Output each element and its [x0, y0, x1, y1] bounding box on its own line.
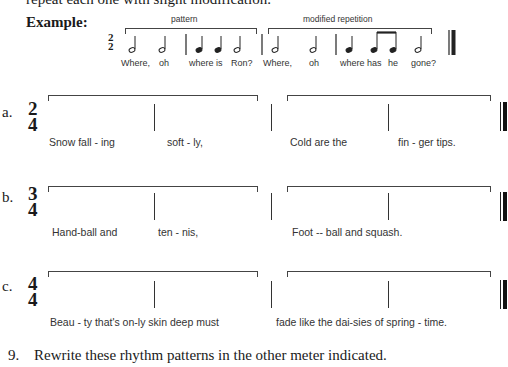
example-lyric: he: [388, 58, 398, 68]
pattern-bracket: [48, 271, 258, 277]
final-bar-line: [503, 280, 507, 309]
lyric: Hand-ball and: [52, 226, 117, 238]
example-lyric: oh: [309, 58, 319, 68]
final-bar-line: [503, 192, 507, 221]
bar-line: [154, 281, 155, 308]
lyric: Snow fall - ing: [49, 136, 115, 148]
lyric: ten - nis,: [158, 226, 198, 238]
final-bar-line: [500, 102, 501, 131]
example-lyric: gone?: [411, 58, 436, 68]
example-lyric: Ron?: [231, 58, 253, 68]
example-lyric: Where,: [263, 58, 292, 68]
final-bar-line: [503, 102, 507, 131]
exercise-letter: c.: [2, 278, 12, 295]
bar-line: [388, 281, 389, 308]
final-bar-line: [500, 192, 501, 221]
question-9: 9.Rewrite these rhythm patterns in the o…: [8, 347, 387, 364]
time-signature: 2 4: [28, 101, 38, 132]
bar-line: [388, 104, 389, 131]
repetition-bracket: [287, 95, 491, 101]
lyric: soft - ly,: [167, 136, 203, 148]
example-lyric: where has: [340, 58, 382, 68]
time-signature: 3 4: [28, 186, 38, 217]
repetition-bracket: [287, 271, 491, 277]
time-signature: 4 4: [28, 276, 38, 307]
bar-line: [154, 193, 155, 220]
lyric: fade like the dai-sies of spring - time.: [276, 316, 447, 328]
lyric: Cold are the: [290, 136, 347, 148]
lyric: Beau - ty that's on-ly skin deep must: [50, 316, 219, 328]
bar-line: [271, 281, 272, 308]
question-text: Rewrite these rhythm patterns in the oth…: [34, 347, 387, 363]
final-bar-line: [500, 280, 501, 309]
exercise-letter: a.: [2, 104, 12, 121]
pattern-bracket: [48, 95, 258, 101]
exercise-letter: b.: [2, 189, 13, 206]
example-lyric: where is: [189, 58, 223, 68]
repetition-bracket: [287, 186, 491, 192]
lyric: Foot -- ball and squash.: [292, 226, 402, 238]
question-number: 9.: [8, 347, 34, 364]
bar-line: [388, 193, 389, 220]
example-lyric: oh: [159, 58, 169, 68]
bar-line: [271, 193, 272, 220]
bar-line: [154, 104, 155, 131]
bar-line: [271, 104, 272, 131]
lyric: fin - ger tips.: [398, 136, 456, 148]
example-lyric: Where,: [121, 58, 150, 68]
pattern-bracket: [48, 186, 258, 192]
